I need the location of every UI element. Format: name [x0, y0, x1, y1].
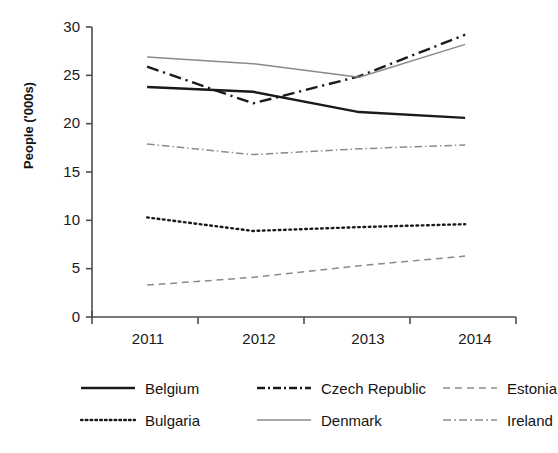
- y-axis-ticks: [86, 27, 92, 317]
- legend: Belgium Czech Republic Estonia Bulgar: [80, 372, 550, 442]
- legend-item-denmark[interactable]: Denmark: [256, 404, 442, 436]
- legend-swatch-estonia: [442, 381, 498, 395]
- series-line-belgium: [147, 87, 465, 118]
- legend-label-ireland: Ireland: [507, 412, 553, 429]
- legend-label-denmark: Denmark: [321, 412, 382, 429]
- legend-row-1: Belgium Czech Republic Estonia: [80, 372, 550, 404]
- series-line-bulgaria: [147, 217, 465, 231]
- legend-label-czech-republic: Czech Republic: [321, 380, 426, 397]
- legend-label-bulgaria: Bulgaria: [145, 412, 200, 429]
- series-line-denmark: [147, 44, 465, 77]
- series-line-estonia: [147, 256, 465, 285]
- legend-label-belgium: Belgium: [145, 380, 199, 397]
- legend-item-estonia[interactable]: Estonia: [442, 372, 550, 404]
- line-chart: People ('000s) 30 25 20 15 10 5 0 2011 2…: [0, 0, 558, 453]
- legend-row-2: Bulgaria Denmark Ireland: [80, 404, 550, 436]
- legend-item-ireland[interactable]: Ireland: [442, 404, 550, 436]
- series-line-ireland: [147, 144, 465, 155]
- legend-swatch-denmark: [256, 413, 312, 427]
- data-series-group: [147, 35, 465, 285]
- legend-item-belgium[interactable]: Belgium: [80, 372, 256, 404]
- legend-swatch-belgium: [80, 381, 136, 395]
- legend-item-bulgaria[interactable]: Bulgaria: [80, 404, 256, 436]
- legend-label-estonia: Estonia: [507, 380, 557, 397]
- legend-item-czech-republic[interactable]: Czech Republic: [256, 372, 442, 404]
- legend-swatch-czech-republic: [256, 381, 312, 395]
- legend-swatch-bulgaria: [80, 413, 136, 427]
- plot-area: [0, 0, 558, 360]
- series-line-czech-republic: [147, 35, 465, 104]
- legend-swatch-ireland: [442, 413, 498, 427]
